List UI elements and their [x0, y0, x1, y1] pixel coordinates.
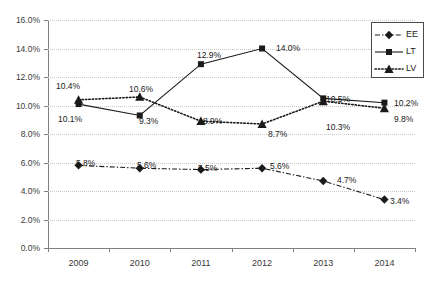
legend-item-LT[interactable]: LT	[374, 43, 421, 60]
y-axis-label: 0.0%	[0, 244, 40, 253]
gridline	[48, 77, 415, 78]
gridline	[48, 163, 415, 164]
line-chart: 16.0%14.0%12.0%10.0%8.0%6.0%4.0%2.0%0.0%…	[0, 0, 429, 286]
y-axis-label: 2.0%	[0, 216, 40, 225]
y-axis-label: 6.0%	[0, 159, 40, 168]
value-label-EE-2014: 3.4%	[390, 197, 409, 206]
x-axis-label-2009: 2009	[48, 259, 109, 268]
legend-item-LV[interactable]: LV	[374, 60, 421, 77]
legend-item-EE[interactable]: EE	[374, 26, 421, 43]
y-axis-tick	[44, 134, 48, 135]
x-axis-label-2014: 2014	[354, 259, 415, 268]
x-axis-label-2011: 2011	[170, 259, 231, 268]
y-axis-label: 10.0%	[0, 102, 40, 111]
y-axis-label: 12.0%	[0, 73, 40, 82]
x-axis-tick	[293, 248, 294, 252]
value-label-LV-2013: 10.3%	[326, 123, 350, 132]
legend-marker-square-icon	[374, 45, 404, 59]
gridline	[48, 20, 415, 21]
value-label-EE-2011: 5.5%	[198, 164, 217, 173]
x-axis-label-2010: 2010	[109, 259, 170, 268]
x-axis-tick	[232, 248, 233, 252]
value-label-LV-2010: 10.6%	[129, 85, 153, 94]
value-label-LT-2014: 10.2%	[394, 99, 418, 108]
value-label-LT-2010: 9.3%	[139, 117, 158, 126]
x-axis-label-2013: 2013	[293, 259, 354, 268]
value-label-EE-2012: 5.6%	[270, 162, 289, 171]
legend-label-LV: LV	[406, 64, 416, 73]
legend-marker-diamond-icon	[374, 28, 404, 42]
y-axis-label: 14.0%	[0, 45, 40, 54]
gridline	[48, 191, 415, 192]
y-axis-tick	[44, 191, 48, 192]
value-label-LT-2009: 10.1%	[58, 115, 82, 124]
y-axis-tick	[44, 106, 48, 107]
y-axis-label: 8.0%	[0, 130, 40, 139]
legend-label-EE: EE	[406, 30, 418, 39]
value-label-LT-2011: 12.9%	[197, 51, 221, 60]
y-axis-tick	[44, 49, 48, 50]
legend-label-LT: LT	[406, 47, 416, 56]
y-axis-tick	[44, 20, 48, 21]
y-axis-tick	[44, 220, 48, 221]
gridline	[48, 220, 415, 221]
value-label-LV-2009: 10.4%	[56, 82, 80, 91]
x-axis-tick	[109, 248, 110, 252]
x-axis-tick	[170, 248, 171, 252]
y-axis-label: 16.0%	[0, 16, 40, 25]
gridline	[48, 49, 415, 50]
value-label-LV-2012: 8.7%	[268, 130, 287, 139]
x-axis-label-2012: 2012	[232, 259, 293, 268]
value-label-LT-2012: 14.0%	[276, 44, 300, 53]
x-axis-tick	[48, 248, 49, 252]
x-axis-tick	[354, 248, 355, 252]
gridline	[48, 134, 415, 135]
y-axis-tick	[44, 163, 48, 164]
gridline	[48, 106, 415, 107]
legend: EELTLV	[371, 22, 424, 78]
value-label-LV-2011: 8.9%	[203, 117, 222, 126]
y-axis-label: 4.0%	[0, 187, 40, 196]
value-label-EE-2013: 4.7%	[337, 176, 356, 185]
legend-marker-triangle-icon	[374, 62, 404, 76]
value-label-EE-2009: 5.8%	[76, 159, 95, 168]
value-label-LV-2014: 9.8%	[394, 115, 413, 124]
value-label-EE-2010: 5.6%	[137, 161, 156, 170]
y-axis-tick	[44, 77, 48, 78]
value-label-LT-2013: 10.5%	[326, 95, 350, 104]
x-axis-tick	[415, 248, 416, 252]
